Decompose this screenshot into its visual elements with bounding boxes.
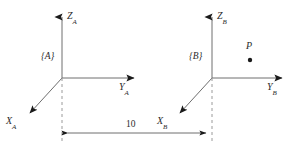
point-label-p: P — [246, 41, 252, 51]
axis-label-ya: YA — [119, 82, 129, 95]
frame-label-b: {B} — [189, 52, 202, 62]
axis-label-xa: XA — [6, 116, 16, 129]
axis-xb-line — [180, 78, 212, 113]
frame-b-axes — [180, 17, 282, 141]
dimension-value-label: 10 — [126, 120, 136, 130]
axis-label-xb: XB — [157, 116, 167, 129]
axis-xa-line — [30, 78, 62, 113]
frame-a-axes — [30, 17, 134, 141]
axis-label-za: ZA — [67, 11, 77, 24]
diagram-canvas — [0, 0, 298, 160]
axis-label-zb: ZB — [217, 11, 227, 24]
point-p-marker — [248, 58, 252, 62]
coordinate-frames-diagram: ZA YA XA {A} ZB YB XB {B} P 10 — [0, 0, 298, 160]
axis-label-yb: YB — [267, 82, 277, 95]
frame-label-a: {A} — [41, 52, 54, 62]
